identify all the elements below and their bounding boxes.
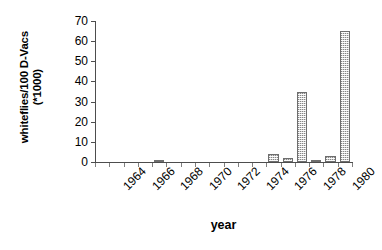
y-axis-tick-label: 50	[58, 55, 88, 67]
bar	[283, 158, 293, 162]
y-axis-title-line-2: (*1000)	[32, 69, 44, 105]
y-axis-tick-label: 70	[58, 15, 88, 27]
y-axis-tick-label: 10	[58, 136, 88, 148]
y-axis-tick-mark	[91, 81, 95, 82]
bar	[311, 160, 321, 162]
y-axis-tick-mark	[91, 122, 95, 123]
plot-area	[95, 21, 352, 162]
x-axis-tick-label: 1964	[121, 165, 148, 192]
y-axis-tick-labels: 706050403020100	[58, 14, 88, 169]
bar	[154, 160, 164, 162]
x-axis-tick-label: 1980	[349, 165, 376, 192]
y-axis-tick-mark	[91, 21, 95, 22]
y-axis-tick-label: 60	[58, 35, 88, 47]
y-axis-title-line-1: whiteflies/100 D-Vacs	[19, 31, 31, 143]
x-axis-title: year	[95, 218, 352, 232]
x-axis-tick-label: 1976	[292, 165, 319, 192]
y-axis-title: whiteflies/100 D-Vacs (*1000)	[0, 0, 62, 175]
y-axis-tick-label: 0	[58, 156, 88, 168]
y-axis-tick-label: 40	[58, 75, 88, 87]
x-axis-tick-label: 1978	[321, 165, 348, 192]
y-axis-tick-mark	[91, 142, 95, 143]
bars-layer	[95, 21, 352, 163]
x-axis-tick-labels: 196419661968197019721974197619781980	[95, 165, 365, 215]
bar-chart: whiteflies/100 D-Vacs (*1000) 7060504030…	[0, 0, 382, 250]
y-axis-tick-label: 30	[58, 96, 88, 108]
bar	[297, 92, 307, 163]
y-axis-tick-mark	[91, 61, 95, 62]
bar	[325, 156, 335, 162]
x-axis-tick-label: 1968	[178, 165, 205, 192]
x-axis-tick-label: 1974	[264, 165, 291, 192]
bar	[268, 154, 278, 162]
bar	[340, 31, 350, 162]
y-axis-tick-label: 20	[58, 116, 88, 128]
x-axis-tick-label: 1966	[150, 165, 177, 192]
x-axis-tick-label: 1970	[207, 165, 234, 192]
x-axis-tick-label: 1972	[235, 165, 262, 192]
y-axis-tick-mark	[91, 41, 95, 42]
y-axis-tick-mark	[91, 102, 95, 103]
